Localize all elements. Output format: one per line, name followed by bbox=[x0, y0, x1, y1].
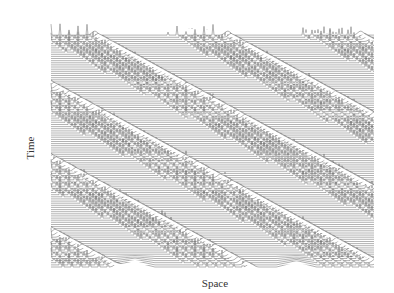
trace-line bbox=[51, 145, 374, 157]
trace-line bbox=[51, 210, 374, 222]
trace-line bbox=[51, 64, 374, 75]
trace-line bbox=[51, 73, 374, 84]
y-axis-label: Time bbox=[22, 128, 38, 168]
trace-line bbox=[51, 147, 374, 159]
waterfall-plot bbox=[0, 0, 394, 293]
x-axis-label: Space bbox=[182, 277, 248, 289]
trace-line bbox=[51, 140, 374, 152]
trace-line bbox=[51, 69, 374, 80]
trace-line bbox=[51, 139, 374, 150]
trace-line bbox=[51, 24, 374, 35]
trace-line bbox=[51, 219, 374, 231]
trace-line bbox=[51, 143, 374, 155]
waterfall-figure: Time Space bbox=[0, 0, 394, 293]
trace-line bbox=[51, 70, 374, 82]
trace-line bbox=[51, 217, 374, 229]
